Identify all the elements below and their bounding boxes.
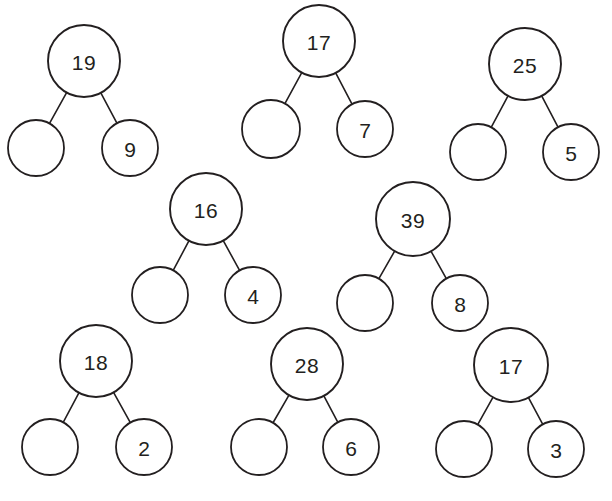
bond-part-value-right: 8 <box>454 293 466 316</box>
bond-edge-right <box>114 392 131 422</box>
bond-edge-right <box>431 251 446 278</box>
bond-part-value-right: 4 <box>247 285 259 308</box>
number-bond: 286 <box>231 328 379 475</box>
bond-part-value-right: 6 <box>345 437 357 460</box>
bond-edge-right <box>101 93 117 123</box>
bond-whole-value: 39 <box>401 209 425 232</box>
number-bond: 182 <box>22 325 172 475</box>
bond-edge-left <box>478 397 493 424</box>
bond-edge-left <box>173 241 189 271</box>
bond-whole-value: 25 <box>513 54 537 77</box>
bond-part-circle-left-blank[interactable] <box>450 124 506 180</box>
bond-part-value-right: 3 <box>550 439 562 462</box>
bond-whole-value: 17 <box>499 355 523 378</box>
bond-edge-right <box>336 73 352 104</box>
bond-edge-left <box>379 251 395 279</box>
bond-part-value-right: 5 <box>565 142 577 165</box>
bond-part-circle-left-blank[interactable] <box>132 267 188 323</box>
bond-part-value-right: 7 <box>359 119 371 142</box>
bond-whole-value: 16 <box>194 199 218 222</box>
bond-part-circle-left-blank[interactable] <box>337 275 393 331</box>
bond-part-circle-left-blank[interactable] <box>22 419 78 475</box>
number-bond: 177 <box>242 5 393 158</box>
bond-edge-right <box>528 398 542 425</box>
bond-part-circle-left-blank[interactable] <box>231 419 287 475</box>
bond-edge-left <box>273 395 289 423</box>
number-bond-canvas: 199177255164398182286173 <box>0 0 612 501</box>
bond-edge-left <box>491 96 508 128</box>
bond-part-value-right: 2 <box>138 437 150 460</box>
number-bond: 164 <box>132 173 281 323</box>
number-bond: 173 <box>436 328 584 477</box>
number-bond: 255 <box>450 28 599 180</box>
bond-edge-right <box>223 241 239 271</box>
bond-whole-value: 17 <box>307 31 331 54</box>
bond-edge-right <box>324 396 338 422</box>
bond-whole-value: 18 <box>84 351 108 374</box>
number-bond: 398 <box>337 182 488 331</box>
bond-whole-value: 28 <box>295 354 319 377</box>
bond-edge-right <box>542 96 558 127</box>
bond-part-circle-left-blank[interactable] <box>242 100 300 158</box>
bond-part-circle-left-blank[interactable] <box>8 120 64 176</box>
bond-edge-left <box>285 73 302 104</box>
bond-whole-value: 19 <box>72 51 96 74</box>
bond-part-circle-left-blank[interactable] <box>436 421 492 477</box>
bond-edge-left <box>63 393 79 423</box>
number-bond: 199 <box>8 25 158 176</box>
bond-edge-left <box>50 93 67 124</box>
bond-part-value-right: 9 <box>124 138 136 161</box>
number-bond-worksheet: 199177255164398182286173 <box>0 0 612 501</box>
